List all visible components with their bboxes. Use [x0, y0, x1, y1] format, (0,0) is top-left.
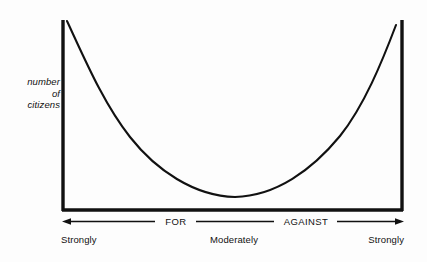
for-arrowhead-left-icon [62, 218, 71, 225]
distribution-curve [67, 21, 396, 197]
y-axis-label-line-2: of [8, 88, 60, 100]
opinion-distribution-figure: number of citizens FOR AGAINST Strongly … [0, 0, 427, 262]
y-axis-label-line-3: citizens [8, 99, 60, 111]
direction-label-for: FOR [156, 216, 196, 227]
y-axis-label: number of citizens [8, 76, 60, 111]
x-tick-label-strongly-against: Strongly [340, 234, 404, 245]
chart-plot-area [0, 0, 427, 262]
x-tick-label-strongly-for: Strongly [61, 234, 97, 245]
y-axis-label-line-1: number [8, 76, 60, 88]
direction-label-against: AGAINST [275, 216, 337, 227]
against-arrowhead-right-icon [395, 218, 404, 225]
x-tick-label-moderately: Moderately [193, 234, 275, 245]
